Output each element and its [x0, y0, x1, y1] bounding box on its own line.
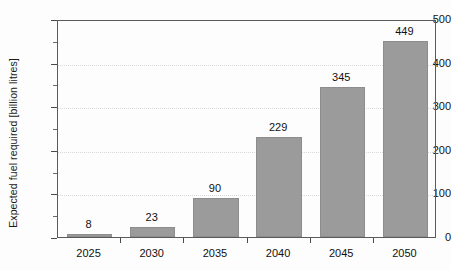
- x-axis-tick-label: 2025: [57, 247, 120, 259]
- bar-chart-figure: Expected fuel required [billion litres] …: [0, 0, 451, 271]
- gridline: [58, 108, 435, 109]
- x-axis-tick: [247, 238, 248, 243]
- y-axis-tick: [51, 238, 57, 239]
- bar: [383, 41, 428, 237]
- bar-value-label: 449: [373, 26, 436, 37]
- bar-value-label: 229: [247, 122, 310, 133]
- x-axis-tick: [310, 238, 311, 243]
- bar-value-label: 90: [183, 183, 246, 194]
- x-axis-tick: [183, 238, 184, 243]
- bar: [320, 87, 365, 237]
- bar: [193, 198, 238, 237]
- bar-value-label: 23: [120, 212, 183, 223]
- bar-value-label: 345: [310, 72, 373, 83]
- bar: [130, 227, 175, 237]
- x-axis-tick-label: 2035: [183, 247, 246, 259]
- x-axis-tick-label: 2045: [310, 247, 373, 259]
- x-axis-tick-label: 2050: [373, 247, 436, 259]
- y-axis-title: Expected fuel required [billion litres]: [6, 34, 20, 252]
- gridline: [58, 152, 435, 153]
- bar-value-label: 8: [57, 219, 120, 230]
- x-axis-tick-label: 2040: [247, 247, 310, 259]
- gridline: [58, 195, 435, 196]
- bar: [67, 234, 112, 237]
- x-axis-tick-label: 2030: [120, 247, 183, 259]
- x-axis-tick: [120, 238, 121, 243]
- bar: [256, 137, 301, 237]
- gridline: [58, 65, 435, 66]
- x-axis-tick: [373, 238, 374, 243]
